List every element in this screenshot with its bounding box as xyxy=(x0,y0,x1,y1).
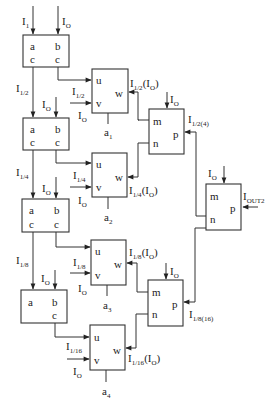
label-io-a1: IO xyxy=(78,109,87,124)
label-io-a2: IO xyxy=(78,194,87,209)
adder-block-a4: u v w xyxy=(90,325,125,370)
svg-text:w: w xyxy=(113,344,121,356)
svg-text:p: p xyxy=(230,202,236,214)
svg-text:b: b xyxy=(52,296,58,308)
label-a2: a2 xyxy=(104,211,113,226)
svg-text:w: w xyxy=(115,87,123,99)
label-i18-a3: I1/8 xyxy=(73,256,86,271)
label-io-c2: IO xyxy=(170,265,179,280)
wire-c1-c3 xyxy=(185,132,206,216)
svg-text:m: m xyxy=(153,115,162,127)
label-i116-a4: I1/16 xyxy=(66,340,83,355)
svg-text:b: b xyxy=(55,40,61,52)
label-io-1: IO xyxy=(62,15,71,30)
svg-text:p: p xyxy=(172,298,178,310)
wire-s4-a4 xyxy=(55,323,89,337)
svg-text:w: w xyxy=(114,258,122,270)
wire-s3-a3 xyxy=(56,232,90,247)
svg-text:a: a xyxy=(29,204,34,216)
combiner-block-3: m n p xyxy=(206,184,241,230)
svg-text:p: p xyxy=(173,128,179,140)
svg-text:w: w xyxy=(115,171,123,183)
svg-text:u: u xyxy=(94,331,100,343)
label-io-2: IO xyxy=(42,98,51,113)
svg-text:a: a xyxy=(28,296,33,308)
svg-text:n: n xyxy=(210,213,216,225)
svg-text:v: v xyxy=(96,181,102,193)
label-io-a4: IO xyxy=(73,365,82,380)
label-iout2: IOUT2 xyxy=(243,190,265,205)
wire-s2-a2 xyxy=(56,150,91,163)
label-i14-a2: I1/4 xyxy=(73,169,86,184)
adder-block-a2: u v w xyxy=(92,153,127,197)
wire-c2-c3 xyxy=(184,228,206,302)
svg-text:c: c xyxy=(55,53,60,65)
splitter-block-4: a b c xyxy=(21,290,67,323)
adder-block-a1: u v w xyxy=(92,69,128,113)
label-i116-io: I1/16(IO) xyxy=(128,352,161,367)
svg-text:c: c xyxy=(30,53,35,65)
label-a1: a1 xyxy=(104,126,113,141)
svg-text:c: c xyxy=(29,218,34,230)
svg-text:v: v xyxy=(94,354,100,366)
combiner-block-1: m n p xyxy=(149,109,184,154)
adder-block-a3: u v w xyxy=(91,240,126,285)
svg-text:a: a xyxy=(30,40,35,52)
label-io-4: IO xyxy=(41,272,50,287)
svg-text:n: n xyxy=(152,308,158,320)
label-i14-io: I1/4(IO) xyxy=(129,184,158,199)
wire-a4-c2 xyxy=(126,314,148,348)
wire-a1-c1 xyxy=(129,92,139,120)
svg-text:m: m xyxy=(210,190,219,202)
svg-text:c: c xyxy=(55,136,60,148)
label-io-a3: IO xyxy=(78,282,87,297)
label-i18-io: I1/8(IO) xyxy=(129,246,158,261)
wire-a3-c2 xyxy=(127,263,148,292)
svg-text:m: m xyxy=(152,286,161,298)
svg-text:b: b xyxy=(55,123,61,135)
label-i1816: I1/8(16) xyxy=(189,308,214,323)
svg-text:a: a xyxy=(30,123,35,135)
label-i12-a1: I1/2 xyxy=(72,85,85,100)
wire-a2-c1 xyxy=(128,143,149,177)
svg-text:u: u xyxy=(96,74,102,86)
svg-text:u: u xyxy=(95,245,101,257)
label-io-c1: IO xyxy=(170,93,179,108)
label-a4: a4 xyxy=(102,385,111,400)
label-i124: I1/2(4) xyxy=(188,113,209,128)
svg-text:c: c xyxy=(30,136,35,148)
splitter-block-1: a b c c xyxy=(23,35,69,67)
svg-text:n: n xyxy=(153,137,159,149)
svg-text:u: u xyxy=(96,158,102,170)
label-i12-left: I1/2 xyxy=(16,82,29,97)
wire-s1-a1 xyxy=(58,67,91,80)
label-i18-left: I1/8 xyxy=(16,254,29,269)
svg-text:c: c xyxy=(52,309,57,321)
label-io-c3: IO xyxy=(208,167,217,182)
splitter-block-2: a b c c xyxy=(23,118,69,150)
svg-text:b: b xyxy=(54,204,60,216)
splitter-block-3: a b c c xyxy=(22,199,69,232)
label-io-3: IO xyxy=(42,182,51,197)
block-diagram: a b c c I1 IO I1/2 u v w I1/2 IO a1 I1/2… xyxy=(0,0,280,412)
svg-text:c: c xyxy=(54,218,59,230)
label-i14-left: I1/4 xyxy=(16,166,29,181)
label-a3: a3 xyxy=(103,299,112,314)
label-i12-io: I1/2(IO) xyxy=(130,77,159,92)
svg-text:v: v xyxy=(95,269,101,281)
label-i1: I1 xyxy=(22,15,30,30)
svg-text:v: v xyxy=(96,97,102,109)
combiner-block-2: m n p xyxy=(148,280,183,326)
